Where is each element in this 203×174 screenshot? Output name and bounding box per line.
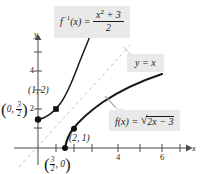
callout-function: f(x) = √2x − 3 xyxy=(109,110,180,131)
inverse-fn-arg: (x) xyxy=(70,17,81,27)
inverse-fn-numerator: x2 + 3 xyxy=(93,9,124,21)
inverse-fn-equals: = xyxy=(84,17,91,27)
point-y-value: , 0 xyxy=(55,159,65,169)
point-label-2-1: (2, 1) xyxy=(69,134,90,144)
y-tick-label-4: 4 xyxy=(25,66,34,75)
fraction-numerator: 3 xyxy=(50,156,56,164)
point-x-value: 0, xyxy=(7,104,14,114)
callout-identity-line: y = x xyxy=(127,54,164,72)
three-halves-fraction: 32 xyxy=(50,156,56,173)
inverse-function-figure: f−1(x) = x2 + 3 2 y = x f(x) = √2x − 3 (… xyxy=(0,0,203,174)
y-tick-label-2: 2 xyxy=(25,104,34,113)
point-marker-2-1 xyxy=(71,126,77,132)
callout-inverse-function: f−1(x) = x2 + 3 2 xyxy=(54,6,130,38)
inverse-num-exponent: 2 xyxy=(101,8,105,16)
point-label-1-2: (1, 2) xyxy=(28,86,49,96)
inverse-num-rest: + 3 xyxy=(107,9,121,20)
inverse-fn-denominator: 2 xyxy=(93,21,124,34)
fraction-denominator: 2 xyxy=(50,164,56,173)
fn-radicand: 2x − 3 xyxy=(146,116,174,127)
inverse-function-curve xyxy=(38,36,90,120)
x-tick-label-4: 4 xyxy=(113,153,123,162)
y-axis-label: y xyxy=(34,30,38,39)
paren-close: ) xyxy=(65,155,71,174)
fn-equals: = xyxy=(131,117,138,127)
x-tick-label-6: 6 xyxy=(157,153,167,162)
point-marker-32-0 xyxy=(62,145,68,151)
point-marker-0-32 xyxy=(35,116,41,122)
point-marker-1-2 xyxy=(53,106,59,112)
x-axis-label: x xyxy=(192,144,196,153)
paren-open: ( xyxy=(1,100,7,119)
inverse-fn-fraction: x2 + 3 2 xyxy=(93,9,124,33)
fn-arg: (x) xyxy=(118,117,129,127)
point-label-three-halves-0: (32, 0) xyxy=(44,156,71,173)
inverse-fn-exponent: −1 xyxy=(63,14,70,22)
point-label-0-three-halves: (0, 32) xyxy=(1,101,28,118)
